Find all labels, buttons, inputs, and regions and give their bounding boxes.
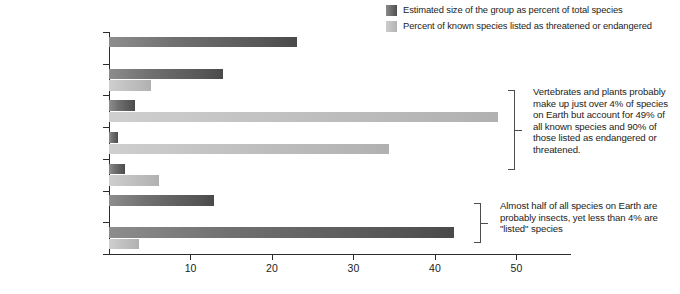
- bar-estimated-size-insects: [109, 227, 454, 238]
- legend-swatch-light: [386, 21, 397, 32]
- x-tick-label-20: 20: [266, 262, 278, 274]
- x-axis-line: [109, 254, 571, 255]
- x-tick-10: [190, 254, 191, 260]
- legend-item-threatened-percent: Percent of known species listed as threa…: [386, 20, 680, 32]
- y-tick-5: [103, 191, 109, 192]
- y-tick-3: [103, 127, 109, 128]
- bar-threatened-percent-insects: [109, 239, 139, 250]
- species-bar-chart: Estimated size of the group as percent o…: [0, 0, 680, 294]
- legend-item-estimated-size: Estimated size of the group as percent o…: [386, 4, 680, 16]
- bar-estimated-size-vertebrates: [109, 132, 118, 143]
- y-tick-1: [103, 64, 109, 65]
- annotation-brace-lower: [471, 203, 481, 243]
- bar-threatened-percent-plants: [109, 112, 498, 123]
- y-tick-0: [103, 32, 109, 33]
- x-tick-30: [353, 254, 354, 260]
- y-tick-2: [103, 95, 109, 96]
- bar-estimated-size-plants: [109, 100, 135, 111]
- y-tick-4: [103, 159, 109, 160]
- x-tick-label-30: 30: [348, 262, 360, 274]
- x-tick-label-10: 10: [185, 262, 197, 274]
- bar-estimated-size-other-invertebrates: [109, 69, 223, 80]
- x-tick-50: [516, 254, 517, 260]
- y-tick-6: [103, 222, 109, 223]
- annotation-text-upper: Vertebrates and plants probably make up …: [533, 86, 673, 156]
- bar-estimated-size-other-species: [109, 37, 297, 48]
- bar-threatened-percent-mollusks: [109, 175, 159, 186]
- x-tick-40: [435, 254, 436, 260]
- bar-threatened-percent-vertebrates: [109, 144, 389, 155]
- y-tick-end: [103, 254, 109, 255]
- legend-swatch-dark: [386, 5, 397, 16]
- x-tick-label-40: 40: [429, 262, 441, 274]
- x-tick-label-50: 50: [511, 262, 523, 274]
- annotation-text-lower: Almost half of all species on Earth are …: [500, 200, 675, 235]
- bar-threatened-percent-other-invertebrates: [109, 80, 151, 91]
- x-tick-20: [272, 254, 273, 260]
- annotation-brace-upper: [505, 90, 515, 170]
- bar-estimated-size-fungi: [109, 195, 214, 206]
- legend-label-threatened-percent: Percent of known species listed as threa…: [403, 20, 652, 31]
- bar-estimated-size-mollusks: [109, 164, 125, 175]
- legend-label-estimated-size: Estimated size of the group as percent o…: [403, 4, 623, 15]
